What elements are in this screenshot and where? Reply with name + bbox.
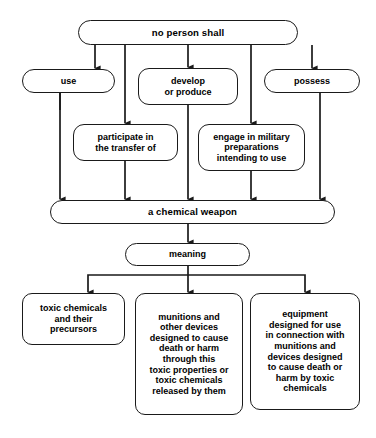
node-meaning-label: meaning	[165, 249, 210, 260]
node-possess-label: possess	[290, 76, 334, 87]
node-equipment-designed-for-use[interactable]: equipment designed for use in connection…	[250, 293, 360, 410]
node-use[interactable]: use	[22, 69, 115, 93]
node-possess[interactable]: possess	[264, 69, 360, 93]
node-equipment-designed-for-use-label: equipment designed for use in connection…	[262, 309, 349, 394]
node-a-chemical-weapon-label: a chemical weapon	[144, 206, 241, 217]
node-participate-in-transfer[interactable]: participate in the transfer of	[73, 124, 178, 161]
node-munitions-and-other-devices[interactable]: munitions and other devices designed to …	[135, 293, 243, 415]
node-no-person-shall[interactable]: no person shall	[78, 20, 298, 45]
node-use-label: use	[57, 76, 81, 87]
flowchart-diagram: no person shall use develop or produce p…	[0, 0, 376, 438]
node-develop-or-produce-label: develop or produce	[160, 76, 215, 97]
node-engage-in-military-preparations[interactable]: engage in military preparations intendin…	[198, 124, 305, 171]
node-a-chemical-weapon[interactable]: a chemical weapon	[50, 200, 335, 224]
node-develop-or-produce[interactable]: develop or produce	[138, 68, 238, 105]
node-toxic-chemicals-and-precursors-label: toxic chemicals and their precursors	[36, 303, 111, 335]
edge-meaning-to-toxic	[88, 275, 188, 292]
node-participate-in-transfer-label: participate in the transfer of	[91, 132, 160, 153]
node-toxic-chemicals-and-precursors[interactable]: toxic chemicals and their precursors	[22, 293, 125, 345]
node-meaning[interactable]: meaning	[125, 243, 250, 266]
node-munitions-and-other-devices-label: munitions and other devices designed to …	[145, 312, 232, 397]
node-engage-in-military-preparations-label: engage in military preparations intendin…	[209, 132, 294, 164]
node-no-person-shall-label: no person shall	[148, 27, 228, 38]
edge-meaning-to-equipment	[188, 275, 305, 292]
